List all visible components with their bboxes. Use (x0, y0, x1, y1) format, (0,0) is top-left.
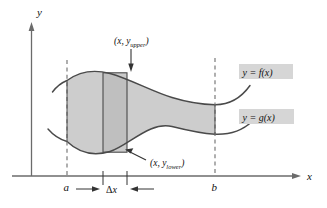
representative-rectangle (103, 73, 127, 152)
region-shading (67, 71, 215, 153)
x-axis-arrowhead (292, 173, 301, 179)
lower-point-leader (130, 152, 146, 160)
upper-point-label: (x, yupper) (114, 36, 149, 48)
bound-label-b: b (212, 181, 218, 193)
delta-x-label: Δx (106, 184, 117, 195)
delta-x-arrow-right-head (130, 186, 138, 192)
bound-label-a: a (64, 181, 70, 193)
area-between-curves-figure: y x a b (x, yupper) (x, ylower) y = f(x)… (0, 0, 327, 208)
lower-curve-label: y = g(x) (242, 112, 276, 124)
y-axis-label: y (36, 6, 42, 18)
upper-curve-label: y = f(x) (242, 67, 274, 79)
lower-point-label: (x, ylower) (150, 158, 184, 170)
x-axis-label: x (306, 170, 312, 182)
delta-x-arrow-left-head (92, 186, 100, 192)
upper-point-arrowhead (128, 64, 133, 73)
y-axis-arrowhead (29, 22, 35, 31)
